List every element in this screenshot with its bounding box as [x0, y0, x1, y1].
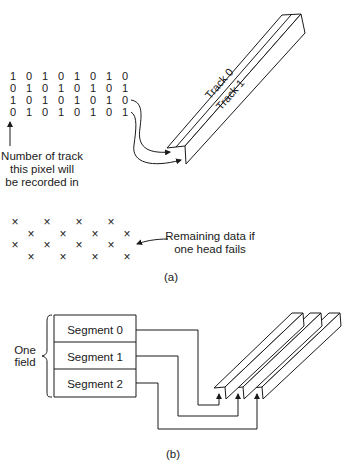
bit: 0 — [26, 94, 32, 106]
bit: 1 — [58, 106, 64, 118]
annotation-line: be recorded in — [5, 176, 79, 188]
bit: 0 — [90, 70, 96, 82]
brace-label-line: One — [14, 344, 36, 356]
bit-grid: 1 0 1 0 1 0 1 0 0 1 0 1 0 1 0 1 1 0 1 0 … — [10, 70, 128, 118]
bit: 1 — [42, 94, 48, 106]
track1-curve-arrow — [131, 112, 181, 164]
bit-row-2: 1 0 1 0 1 0 1 0 — [10, 94, 128, 106]
x-mark: × — [59, 227, 66, 241]
bit: 1 — [90, 106, 96, 118]
brace-label-line: field — [14, 356, 35, 368]
bit: 0 — [122, 70, 128, 82]
bit: 0 — [90, 94, 96, 106]
bit: 1 — [26, 82, 32, 94]
x-mark: × — [123, 250, 130, 264]
bit: 0 — [106, 82, 112, 94]
x-mark: × — [107, 215, 114, 229]
x-mark: × — [75, 215, 82, 229]
bit: 1 — [106, 94, 112, 106]
caption-b: (b) — [166, 448, 180, 460]
bit: 1 — [74, 70, 80, 82]
bit: 0 — [42, 82, 48, 94]
bit: 0 — [42, 106, 48, 118]
x-mark: × — [27, 227, 34, 241]
bit-annotation: Number of track this pixel will be recor… — [1, 150, 83, 188]
bit: 0 — [58, 94, 64, 106]
annotation-line: Remaining data if — [165, 230, 255, 242]
field-segments-box: Segment 0 Segment 1 Segment 2 — [54, 315, 136, 397]
bit: 0 — [10, 82, 16, 94]
remaining-data-arrow — [137, 239, 168, 244]
x-mark: × — [11, 215, 18, 229]
bit: 1 — [58, 82, 64, 94]
bit: 1 — [74, 94, 80, 106]
bit: 1 — [42, 70, 48, 82]
bit: 1 — [10, 94, 16, 106]
bit: 0 — [74, 82, 80, 94]
segment-0-label: Segment 0 — [67, 324, 123, 336]
bit: 0 — [74, 106, 80, 118]
bit: 1 — [122, 82, 128, 94]
x-mark: × — [43, 238, 50, 252]
remaining-data-marks: × × × × × × × × × × × × × × × × — [11, 215, 130, 264]
prism-side-face — [185, 14, 305, 164]
bit: 0 — [122, 94, 128, 106]
bit-row-0: 1 0 1 0 1 0 1 0 — [10, 70, 128, 82]
x-mark: × — [75, 238, 82, 252]
annotation-line: one head fails — [174, 243, 246, 255]
annotation-line: this pixel will — [10, 163, 74, 175]
bit: 0 — [58, 70, 64, 82]
bit: 0 — [10, 106, 16, 118]
x-mark: × — [11, 238, 18, 252]
tape-track-prism: Track 0 Track 1 — [167, 14, 305, 164]
diagram-canvas: 1 0 1 0 1 0 1 0 0 1 0 1 0 1 0 1 1 0 1 0 … — [0, 0, 352, 465]
caption-a: (a) — [164, 271, 178, 283]
track0-curve-arrow — [131, 100, 170, 152]
segment-2-label: Segment 2 — [67, 378, 123, 390]
segment-2-wire — [136, 383, 257, 429]
bit: 0 — [26, 70, 32, 82]
bit: 1 — [122, 106, 128, 118]
annotation-line: Number of track — [1, 150, 83, 162]
bit: 1 — [26, 106, 32, 118]
x-mark: × — [107, 238, 114, 252]
bit: 1 — [90, 82, 96, 94]
x-mark: × — [43, 215, 50, 229]
bit: 1 — [10, 70, 16, 82]
tape-tracks-b — [214, 313, 341, 399]
bit-row-1: 0 1 0 1 0 1 0 1 — [10, 82, 128, 94]
remaining-annotation: Remaining data if one head fails — [165, 230, 255, 255]
x-mark: × — [91, 250, 98, 264]
x-mark: × — [59, 250, 66, 264]
segment-1-label: Segment 1 — [67, 351, 123, 363]
bit-row-3: 0 1 0 1 0 1 0 1 — [10, 106, 128, 118]
bit: 0 — [106, 106, 112, 118]
x-mark: × — [91, 227, 98, 241]
field-brace — [42, 315, 52, 397]
bit: 1 — [106, 70, 112, 82]
x-mark: × — [123, 227, 130, 241]
x-mark: × — [27, 250, 34, 264]
